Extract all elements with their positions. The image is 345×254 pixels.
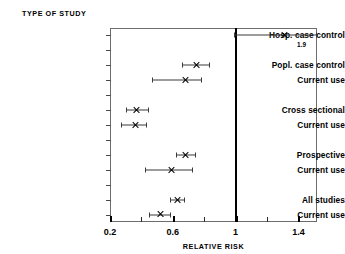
forest-plot-figure: TYPE OF STUDY 0.20.611.4RELATIVE RISKHos… (0, 0, 345, 254)
confidence-interval-line (152, 80, 201, 81)
x-axis-tick (173, 216, 175, 222)
study-row-label: Current use (243, 210, 345, 220)
point-estimate-marker (168, 166, 175, 173)
study-row-label: Current use (243, 120, 345, 130)
ci-cap-high (209, 63, 210, 68)
ci-cap-low (152, 78, 153, 83)
study-row-label: Current use (243, 75, 345, 85)
x-axis-minor-tick (204, 217, 205, 222)
ci-cap-low (149, 212, 150, 217)
x-axis-minor-tick (141, 217, 142, 222)
y-axis-tick (106, 110, 111, 111)
x-axis-tick-label: 0.2 (104, 227, 117, 237)
y-axis-tick (106, 155, 111, 156)
ci-cap-low (182, 63, 183, 68)
study-row-label: Cross sectional (243, 105, 345, 115)
ci-cap-high (201, 78, 202, 83)
ci-cap-low (176, 152, 177, 157)
point-estimate-marker (157, 211, 164, 218)
point-estimate-marker (182, 77, 189, 84)
ci-cap-high (170, 212, 171, 217)
y-axis-tick (106, 200, 111, 201)
null-reference-line (235, 28, 237, 222)
study-row-label: Prospective (243, 150, 345, 160)
x-axis-tick (110, 216, 112, 222)
ci-cap-high (195, 152, 196, 157)
y-axis-tick (106, 35, 111, 36)
study-row-label: All studies (243, 195, 345, 205)
point-estimate-marker (133, 107, 140, 114)
y-axis-tick (106, 170, 111, 171)
ci-cap-low (126, 108, 127, 113)
point-estimate-marker (182, 151, 189, 158)
point-estimate-marker (174, 196, 181, 203)
y-axis-tick (106, 185, 111, 186)
confidence-interval-line (234, 35, 316, 36)
y-axis-tick (106, 80, 111, 81)
ci-cap-high (316, 33, 317, 38)
x-axis-tick-label: 1.4 (292, 227, 305, 237)
y-axis-tick (106, 95, 111, 96)
study-row-label: Popl. case control (243, 60, 345, 70)
ci-cap-low (145, 167, 146, 172)
x-axis-tick (236, 216, 238, 222)
y-axis-tick (106, 140, 111, 141)
chart-header-title: TYPE OF STUDY (22, 9, 86, 18)
point-value-annotation: 1.9 (297, 41, 306, 48)
y-axis-tick (106, 65, 111, 66)
ci-cap-low (234, 33, 235, 38)
ci-cap-high (148, 108, 149, 113)
x-axis-tick-label: 1 (233, 227, 238, 237)
x-axis-tick-label: 0.6 (167, 227, 180, 237)
study-row-label: Current use (243, 165, 345, 175)
ci-cap-high (184, 197, 185, 202)
point-estimate-marker (193, 62, 200, 69)
ci-cap-high (192, 167, 193, 172)
y-axis-tick (106, 125, 111, 126)
ci-cap-low (121, 123, 122, 128)
ci-cap-high (146, 123, 147, 128)
x-axis-title: RELATIVE RISK (183, 242, 244, 251)
point-estimate-marker (281, 32, 288, 39)
y-axis-tick (106, 50, 111, 51)
point-estimate-marker (132, 122, 139, 129)
ci-cap-low (170, 197, 171, 202)
